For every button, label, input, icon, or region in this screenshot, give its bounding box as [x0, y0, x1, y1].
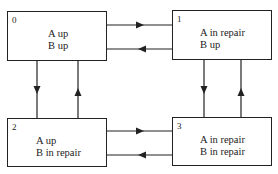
state-box-1: 1 A in repair B up	[172, 10, 272, 60]
state-line-b: B up	[48, 40, 68, 52]
state-line-b: B in repair	[36, 147, 81, 159]
state-line-a: A up	[36, 135, 81, 147]
state-number: 3	[177, 121, 182, 131]
arrow-1-to-0	[107, 46, 172, 53]
arrow-2-to-3	[107, 128, 172, 135]
state-box-2: 2 A up B in repair	[7, 118, 107, 167]
state-line-b: B in repair	[200, 146, 245, 158]
state-line-b: B up	[200, 39, 245, 51]
state-number: 1	[177, 14, 182, 24]
arrow-3-to-2	[107, 152, 172, 159]
state-line-a: A in repair	[200, 134, 245, 146]
state-box-3: 3 A in repair B in repair	[172, 117, 272, 166]
arrow-0-to-2	[34, 61, 41, 118]
state-line-a: A up	[48, 28, 68, 40]
arrow-1-to-3	[201, 60, 208, 117]
arrow-2-to-0	[75, 61, 82, 118]
arrow-0-to-1	[107, 22, 172, 29]
state-number: 2	[12, 122, 17, 132]
state-box-0: 0 A up B up	[7, 11, 107, 61]
arrow-3-to-1	[238, 60, 245, 117]
state-number: 0	[12, 15, 17, 25]
state-line-a: A in repair	[200, 27, 245, 39]
